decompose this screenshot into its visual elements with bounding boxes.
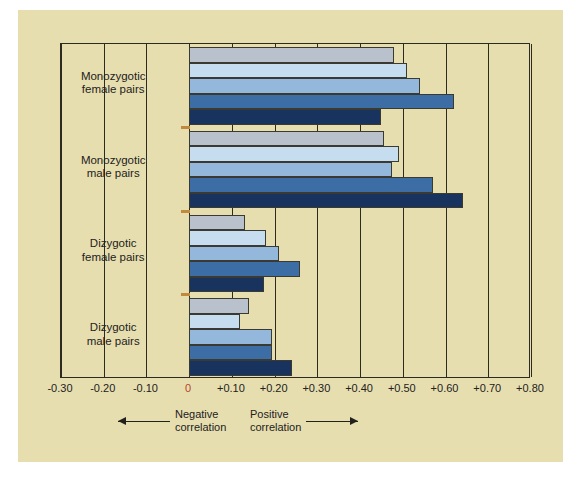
axis-tick-label: +0.10 xyxy=(217,382,245,394)
arrow-left-icon xyxy=(118,417,170,426)
legend-positive-label: Positive correlation xyxy=(250,408,301,434)
axis-tick-label: +0.30 xyxy=(302,382,330,394)
axis-tick-label: +0.60 xyxy=(431,382,459,394)
legend-positive: Positive correlation xyxy=(250,408,358,434)
arrow-right-icon xyxy=(306,417,358,426)
axis-tick-label: +0.80 xyxy=(516,382,544,394)
bar xyxy=(189,215,245,231)
legend-negative-label: Negative correlation xyxy=(175,408,226,434)
axis-tick-label: -0.20 xyxy=(90,382,115,394)
bar xyxy=(189,246,279,262)
group-separator-tick xyxy=(181,210,190,213)
bar xyxy=(189,193,462,209)
bar xyxy=(189,63,407,79)
axis-tick-label: +0.40 xyxy=(345,382,373,394)
bar xyxy=(189,177,433,193)
bar xyxy=(189,109,381,125)
bar xyxy=(189,277,264,293)
axis-tick-label: +0.20 xyxy=(260,382,288,394)
bar xyxy=(189,298,249,314)
category-label: Dizygotic female pairs xyxy=(53,237,173,264)
gridline xyxy=(488,44,489,377)
category-label: Monozygotic female pairs xyxy=(53,70,173,97)
axis-tick-label: -0.30 xyxy=(47,382,72,394)
bar xyxy=(189,314,240,330)
legend-negative: Negative correlation xyxy=(118,408,226,434)
bar xyxy=(189,47,394,63)
bar xyxy=(189,345,272,361)
axis-tick-zero: 0 xyxy=(185,382,191,394)
bar xyxy=(189,360,292,376)
axis-tick-label: +0.70 xyxy=(473,382,501,394)
gridline xyxy=(531,44,532,377)
bar xyxy=(189,261,300,277)
bar xyxy=(189,329,272,345)
group-separator-tick xyxy=(181,293,190,296)
axis-tick-labels: -0.30-0.20-0.100+0.10+0.20+0.30+0.40+0.5… xyxy=(18,382,563,402)
bar xyxy=(189,230,266,246)
bar xyxy=(189,94,454,110)
group-separator-tick xyxy=(181,126,190,129)
axis-tick-label: -0.10 xyxy=(133,382,158,394)
axis-tick-label: +0.50 xyxy=(388,382,416,394)
bar xyxy=(189,146,398,162)
bar xyxy=(189,162,392,178)
category-label: Dizygotic male pairs xyxy=(53,321,173,348)
bar xyxy=(189,78,420,94)
bar xyxy=(189,131,383,147)
category-label: Monozygotic male pairs xyxy=(53,154,173,181)
chart-figure: Monozygotic female pairsMonozygotic male… xyxy=(18,10,563,462)
